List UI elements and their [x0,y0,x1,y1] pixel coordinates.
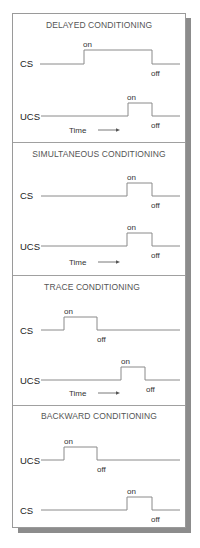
time-label: Time [69,126,87,135]
on-label: on [64,307,73,316]
on-label: on [127,93,136,102]
on-label: on [127,487,136,496]
diagram-box [13,14,186,528]
signal-label-cs: CS [20,505,33,516]
off-label: off [97,465,107,474]
signal-label-cs: CS [20,58,33,69]
off-label: off [151,515,161,524]
on-label: on [121,357,130,366]
on-label: on [83,40,92,49]
time-label: Time [69,258,87,267]
on-label: on [127,223,136,232]
off-label: off [151,201,161,210]
panel-title: SIMULTANEOUS CONDITIONING [32,149,165,159]
panel-title: BACKWARD CONDITIONING [41,411,157,421]
signal-label-cs: CS [20,190,33,201]
signal-label-cs: CS [20,325,33,336]
on-label: on [64,437,73,446]
off-label: off [151,121,161,130]
time-label: Time [69,389,87,398]
signal-label-ucs: UCS [20,241,40,252]
panel-title: TRACE CONDITIONING [44,282,140,292]
on-label: on [127,173,136,182]
off-label: off [151,251,161,260]
off-label: off [97,335,107,344]
conditioning-timing-diagram: DELAYED CONDITIONING CS on off UCS on of… [0,0,200,548]
signal-label-ucs: UCS [20,111,40,122]
off-label: off [151,69,161,78]
off-label: off [146,385,156,394]
panel-title: DELAYED CONDITIONING [46,20,152,30]
signal-label-ucs: UCS [20,455,40,466]
signal-label-ucs: UCS [20,375,40,386]
